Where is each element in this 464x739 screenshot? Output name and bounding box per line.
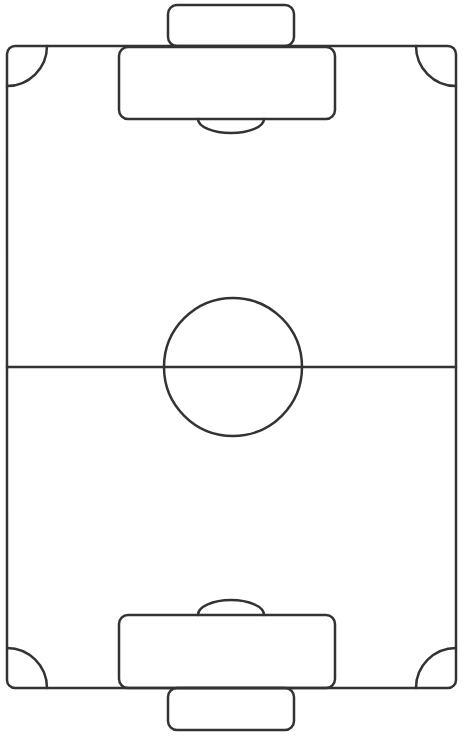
top-penalty-arc [198, 119, 264, 133]
bottom-penalty-box [119, 615, 335, 688]
bottom-goal [168, 688, 294, 730]
bottom-penalty-arc [198, 600, 264, 615]
corner-arc-top-left [7, 46, 47, 86]
top-goal [168, 5, 294, 46]
corner-arc-top-right [416, 46, 456, 86]
soccer-pitch-diagram [0, 0, 464, 739]
corner-arc-bottom-right [416, 648, 456, 688]
top-penalty-box [119, 47, 335, 119]
corner-arc-bottom-left [7, 648, 47, 688]
